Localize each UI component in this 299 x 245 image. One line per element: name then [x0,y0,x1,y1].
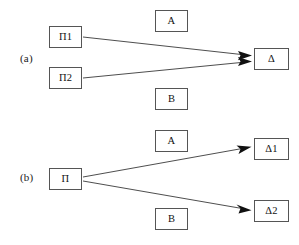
node-delta1-label: Δ1 [265,143,277,154]
node-pi1[interactable]: Π1 [49,26,82,48]
node-pi2-label: Π2 [59,72,72,83]
node-delta[interactable]: Δ [254,48,289,70]
node-b-bottom-b[interactable]: B [155,208,188,230]
node-a-top-label: A [168,15,176,26]
node-pi2[interactable]: Π2 [49,67,82,89]
node-pi-label: Π [62,173,70,184]
node-a-top-b-label: A [168,135,176,146]
panel-b: (b) Π A B Δ1 Δ2 [0,122,299,245]
node-b-bottom-label: B [168,93,175,104]
node-a-top-b[interactable]: A [155,130,188,152]
node-delta-label: Δ [268,53,275,64]
edge-pi1-to-delta [83,37,252,60]
node-delta2-label: Δ2 [265,205,277,216]
diagram-root: (a) Π1 Π2 A B Δ (b) [0,0,299,245]
node-delta2[interactable]: Δ2 [254,200,289,222]
edge-pi2-to-delta [83,57,252,78]
node-b-bottom[interactable]: B [155,88,188,110]
panel-a: (a) Π1 Π2 A B Δ [0,0,299,122]
node-b-bottom-b-label: B [168,213,175,224]
node-delta1[interactable]: Δ1 [254,138,289,160]
node-pi1-label: Π1 [59,31,72,42]
node-pi[interactable]: Π [49,168,82,190]
node-a-top[interactable]: A [155,10,188,32]
